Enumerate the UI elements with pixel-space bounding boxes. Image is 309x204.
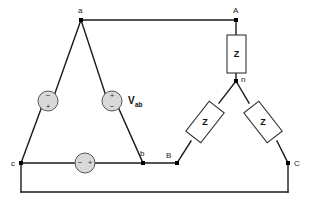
node-a: a	[78, 6, 83, 22]
impedance-phase-b: Z	[186, 101, 224, 143]
wire-zc-to-C	[277, 141, 288, 163]
node-A-label: A	[233, 6, 239, 15]
node-b-label: b	[140, 149, 145, 158]
impedance-layer: ZZZ	[186, 35, 282, 143]
voltage-label-vab-subscript: ab	[135, 101, 143, 108]
voltage-label-layer: Vab	[128, 95, 143, 108]
source-bc-right-polarity: +	[88, 158, 93, 167]
impedance-phase-a: Z	[227, 35, 246, 73]
node-B-label: B	[166, 151, 171, 160]
wire-n-to-zb	[219, 81, 236, 103]
node-a-dot	[79, 18, 83, 22]
source-ab-top-polarity: +	[110, 91, 115, 100]
source-ab-bottom-polarity: −	[110, 102, 115, 111]
source-ca-bottom-polarity: +	[46, 102, 51, 111]
wire-source-ca-to-c	[21, 109, 41, 163]
wire-a-to-source-ab	[81, 20, 105, 93]
voltage-label-vab: Vab	[128, 95, 143, 108]
node-b-dot	[141, 161, 145, 165]
source-ca-top-polarity: −	[46, 91, 51, 100]
circuit-diagram-svg: ZZZ −++−−+ abcABCn Vab	[0, 0, 309, 204]
node-C-dot	[286, 161, 290, 165]
node-n-dot	[234, 79, 238, 83]
voltage-label-vab-symbol: V	[128, 95, 135, 106]
circuit-diagram-canvas: ZZZ −++−−+ abcABCn Vab	[0, 0, 309, 204]
source-bc-left-polarity: −	[78, 158, 83, 167]
impedance-phase-b-label: Z	[202, 117, 208, 127]
node-C-label: C	[294, 159, 300, 168]
source-bc: −+	[75, 153, 95, 173]
node-a-label: a	[78, 6, 83, 15]
wire-n-to-zc	[236, 81, 249, 103]
node-B-dot	[175, 161, 179, 165]
node-A-dot	[234, 18, 238, 22]
node-layer: abcABCn	[11, 6, 300, 168]
source-layer: −++−−+	[38, 91, 122, 173]
node-c-label: c	[11, 159, 15, 168]
impedance-phase-a-label: Z	[234, 49, 240, 59]
source-ca: −+	[38, 91, 58, 111]
impedance-phase-c: Z	[244, 101, 282, 143]
wire-a-to-source-ca	[55, 20, 81, 93]
node-c-dot	[19, 161, 23, 165]
wire-zb-to-B	[177, 141, 191, 163]
source-ab: +−	[102, 91, 122, 111]
node-n-label: n	[241, 75, 245, 84]
wires-layer	[21, 20, 288, 192]
impedance-phase-c-label: Z	[260, 117, 266, 127]
